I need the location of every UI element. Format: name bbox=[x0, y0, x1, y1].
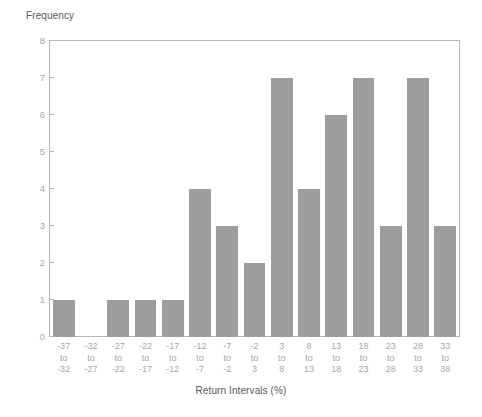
y-axis-tick-label: 6 bbox=[0, 109, 45, 120]
y-axis-tick-label: 5 bbox=[0, 146, 45, 157]
y-axis-tick-label: 4 bbox=[0, 183, 45, 194]
x-axis-tick-label: -32to-27 bbox=[77, 341, 104, 376]
bar bbox=[244, 263, 266, 337]
y-axis-tick-label: 0 bbox=[0, 331, 45, 342]
x-axis-tick-label: -17to-12 bbox=[159, 341, 186, 376]
x-axis-tick-label: -2to3 bbox=[241, 341, 268, 376]
bar bbox=[407, 78, 429, 337]
bar bbox=[216, 226, 238, 337]
x-axis-tick-labels: -37to-32-32to-27-27to-22-22to-17-17to-12… bbox=[50, 341, 459, 381]
x-axis-tick-label: 13to18 bbox=[323, 341, 350, 376]
histogram-chart: Frequency 012345678 -37to-32-32to-27-27t… bbox=[0, 0, 482, 417]
x-axis-tick-label: 28to33 bbox=[404, 341, 431, 376]
x-axis-tick-label: 18to23 bbox=[350, 341, 377, 376]
bars-layer bbox=[50, 41, 459, 337]
bar bbox=[380, 226, 402, 337]
bar bbox=[298, 189, 320, 337]
x-axis-title: Return Intervals (%) bbox=[0, 385, 482, 396]
bar bbox=[325, 115, 347, 337]
x-axis-tick-label: -12to-7 bbox=[186, 341, 213, 376]
bar bbox=[353, 78, 375, 337]
x-axis-tick-label: -7to-2 bbox=[214, 341, 241, 376]
y-axis-tick-label: 2 bbox=[0, 257, 45, 268]
bar bbox=[434, 226, 456, 337]
y-axis-tick-label: 7 bbox=[0, 72, 45, 83]
bar bbox=[189, 189, 211, 337]
bar bbox=[271, 78, 293, 337]
y-axis-tick-label: 8 bbox=[0, 35, 45, 46]
x-axis-tick-label: 8to13 bbox=[295, 341, 322, 376]
x-axis-tick-label: -27to-22 bbox=[105, 341, 132, 376]
y-axis-title: Frequency bbox=[26, 10, 74, 21]
x-axis-tick-label: 23to28 bbox=[377, 341, 404, 376]
y-axis-tick-label: 1 bbox=[0, 294, 45, 305]
bar bbox=[135, 300, 157, 337]
x-axis-tick-label: 3to8 bbox=[268, 341, 295, 376]
x-axis-tick-label: -22to-17 bbox=[132, 341, 159, 376]
x-axis-tick-label: 33to38 bbox=[432, 341, 459, 376]
x-axis-tick-label: -37to-32 bbox=[50, 341, 77, 376]
bar bbox=[107, 300, 129, 337]
y-axis-tick-label: 3 bbox=[0, 220, 45, 231]
bar bbox=[53, 300, 75, 337]
bar bbox=[162, 300, 184, 337]
